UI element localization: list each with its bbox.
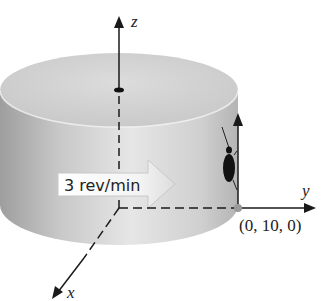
- cylinder-diagram: z 3 rev/min y x (0, 10, 0): [0, 0, 323, 301]
- rotation-label: 3 rev/min: [64, 176, 140, 195]
- point-marker: [234, 204, 242, 212]
- point-label: (0, 10, 0): [239, 216, 301, 235]
- z-axis-arrowhead-icon: [114, 16, 124, 28]
- y-axis-label: y: [300, 181, 310, 200]
- x-axis-label: x: [66, 283, 75, 301]
- top-center-marker: [114, 88, 124, 93]
- y-axis-arrowhead-icon: [304, 203, 316, 213]
- z-axis-label: z: [130, 12, 138, 31]
